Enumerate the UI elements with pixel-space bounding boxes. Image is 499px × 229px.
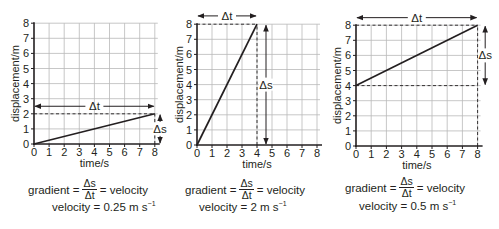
unit-exponent: −1 bbox=[448, 199, 456, 206]
y-tick-label: 2 bbox=[23, 108, 29, 120]
y-tick-label: 7 bbox=[186, 33, 192, 45]
gradient-caption-3: gradient = Δs Δt = velocity bbox=[345, 176, 465, 199]
gradient-suffix: = velocity bbox=[257, 184, 305, 196]
y-tick-label: 4 bbox=[23, 78, 29, 90]
y-tick-label: 8 bbox=[186, 18, 192, 30]
y-tick-label: 3 bbox=[186, 94, 192, 106]
x-tick-label: 8 bbox=[475, 148, 481, 160]
gradient-prefix: gradient = bbox=[345, 182, 396, 194]
velocity-result-1: velocity = 0.25 m s−1 bbox=[52, 200, 156, 213]
x-tick-label: 7 bbox=[299, 147, 305, 159]
y-axis-label: displacement/m bbox=[9, 45, 21, 122]
y-tick-label: 4 bbox=[186, 79, 192, 91]
delta-fraction: Δs Δt bbox=[399, 176, 413, 199]
gradient-suffix: = velocity bbox=[417, 182, 465, 194]
gradient-caption-1: gradient = Δs Δt = velocity bbox=[28, 178, 148, 201]
delta-t-label: Δt bbox=[89, 100, 101, 112]
y-axis-label: displacement/m bbox=[331, 47, 343, 124]
y-tick-label: 7 bbox=[345, 34, 351, 46]
y-tick-label: 1 bbox=[345, 125, 351, 137]
x-axis-label: time/s bbox=[402, 159, 432, 171]
unit-exponent: −1 bbox=[148, 200, 156, 207]
x-tick-label: 7 bbox=[459, 148, 465, 160]
y-tick-label: 0 bbox=[345, 140, 351, 152]
delta-t-label: Δt bbox=[222, 10, 234, 22]
x-tick-label: 0 bbox=[353, 148, 359, 160]
velocity-text: velocity = 2 m s bbox=[199, 201, 279, 213]
velocity-text: velocity = 0.5 m s bbox=[359, 200, 448, 212]
y-tick-label: 8 bbox=[23, 17, 29, 29]
y-tick-label: 6 bbox=[23, 47, 29, 59]
x-tick-label: 6 bbox=[284, 147, 290, 159]
y-tick-label: 4 bbox=[345, 80, 351, 92]
delta-s-label: Δs bbox=[478, 49, 492, 61]
y-tick-label: 6 bbox=[186, 48, 192, 60]
velocity-result-2: velocity = 2 m s−1 bbox=[199, 200, 287, 213]
delta-s-label: Δs bbox=[153, 123, 167, 135]
x-tick-label: 1 bbox=[368, 148, 374, 160]
x-tick-label: 8 bbox=[314, 147, 320, 159]
gradient-caption-2: gradient = Δs Δt = velocity bbox=[185, 178, 305, 201]
y-tick-label: 3 bbox=[345, 95, 351, 107]
x-tick-label: 8 bbox=[152, 146, 158, 158]
grid bbox=[34, 23, 158, 144]
gradient-suffix: = velocity bbox=[100, 184, 148, 196]
x-tick-label: 0 bbox=[31, 146, 37, 158]
velocity-text: velocity = 0.25 m s bbox=[52, 201, 148, 213]
y-tick-label: 5 bbox=[23, 63, 29, 75]
x-tick-label: 6 bbox=[122, 146, 128, 158]
y-tick-label: 1 bbox=[23, 123, 29, 135]
y-tick-label: 8 bbox=[345, 19, 351, 31]
x-tick-label: 1 bbox=[46, 146, 52, 158]
x-tick-label: 6 bbox=[444, 148, 450, 160]
y-tick-label: 0 bbox=[23, 138, 29, 150]
chart-panel-3: 012345678012345678time/sdisplacement/mΔt… bbox=[331, 12, 492, 171]
figure-stage: 012345678012345678time/sdisplacement/mΔt… bbox=[0, 0, 499, 229]
delta-t-label: Δt bbox=[411, 12, 423, 24]
x-axis-label: time/s bbox=[80, 157, 110, 169]
x-tick-label: 2 bbox=[224, 147, 230, 159]
y-tick-label: 2 bbox=[345, 110, 351, 122]
x-tick-label: 7 bbox=[137, 146, 143, 158]
delta-fraction: Δs Δt bbox=[82, 178, 96, 201]
y-tick-label: 7 bbox=[23, 32, 29, 44]
fraction-denominator: Δt bbox=[402, 188, 412, 199]
y-tick-label: 6 bbox=[345, 49, 351, 61]
x-tick-label: 1 bbox=[209, 147, 215, 159]
x-tick-label: 0 bbox=[194, 147, 200, 159]
y-tick-label: 2 bbox=[186, 109, 192, 121]
x-tick-label: 2 bbox=[383, 148, 389, 160]
y-tick-label: 0 bbox=[186, 139, 192, 151]
y-tick-label: 3 bbox=[23, 93, 29, 105]
y-tick-label: 5 bbox=[345, 65, 351, 77]
chart-panel-2: 012345678012345678time/sdisplacement/mΔt… bbox=[173, 10, 322, 170]
delta-s-label: Δs bbox=[259, 79, 273, 91]
gradient-prefix: gradient = bbox=[28, 184, 79, 196]
chart-panel-1: 012345678012345678time/sdisplacement/mΔt… bbox=[9, 17, 167, 169]
unit-exponent: −1 bbox=[279, 200, 287, 207]
x-tick-label: 2 bbox=[61, 146, 67, 158]
x-axis-label: time/s bbox=[242, 158, 272, 170]
y-tick-label: 1 bbox=[186, 124, 192, 136]
velocity-result-3: velocity = 0.5 m s−1 bbox=[359, 199, 456, 212]
y-axis-label: displacement/m bbox=[173, 46, 185, 123]
gradient-prefix: gradient = bbox=[185, 184, 236, 196]
delta-fraction: Δs Δt bbox=[239, 178, 253, 201]
y-tick-label: 5 bbox=[186, 64, 192, 76]
